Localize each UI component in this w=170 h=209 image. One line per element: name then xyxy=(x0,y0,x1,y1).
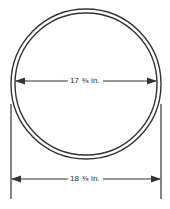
inner-dim-arrowhead-left-icon xyxy=(15,78,25,85)
technical-drawing-canvas: 17 ⅜ in. 18 ⅜ in. xyxy=(0,0,170,209)
inner-diameter-label: 17 ⅜ in. xyxy=(68,77,102,85)
outer-dim-arrowhead-left-icon xyxy=(11,176,21,183)
outer-dim-arrowhead-right-icon xyxy=(151,176,161,183)
outer-diameter-label: 18 ⅜ in. xyxy=(68,175,102,183)
inner-dim-arrowhead-right-icon xyxy=(147,78,157,85)
